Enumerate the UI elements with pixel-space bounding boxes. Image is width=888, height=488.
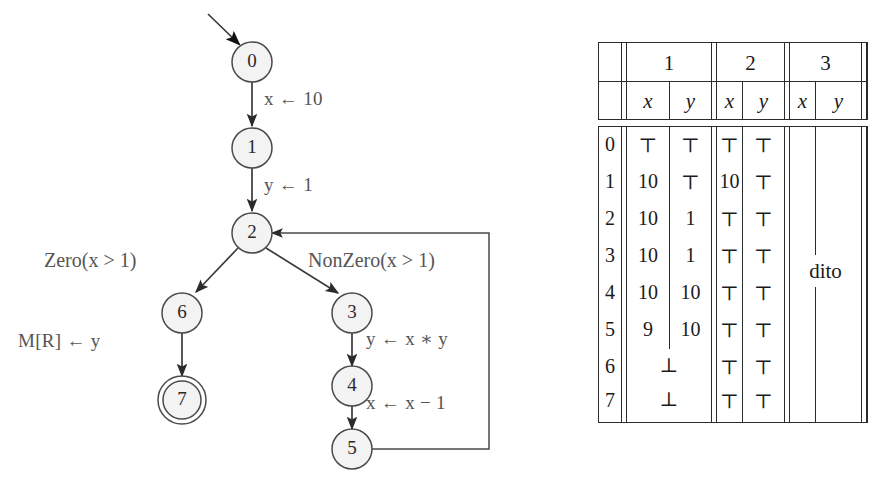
var-header-col3-x: x bbox=[790, 83, 815, 119]
cell-col2-x-row6: ⊤ bbox=[717, 355, 742, 379]
cell-col1-x-row4: 10 bbox=[627, 281, 669, 304]
edge-label-0-1: x ← 10 bbox=[264, 88, 323, 110]
edge-label-2-3-nonzero: NonZero(x > 1) bbox=[308, 249, 435, 272]
node-5-label: 5 bbox=[347, 437, 357, 458]
node-7[interactable]: 7 bbox=[158, 376, 206, 424]
cell-col2-x-row2: ⊤ bbox=[717, 207, 742, 231]
cell-col2-x-row0: ⊤ bbox=[717, 133, 742, 157]
group-header-2: 2 bbox=[717, 45, 784, 81]
row-label-0: 0 bbox=[599, 133, 621, 156]
cell-col1-y-row0: ⊤ bbox=[670, 133, 711, 157]
cell-col1-x-row3: 10 bbox=[627, 244, 669, 267]
cell-col2-x-row5: ⊤ bbox=[717, 318, 742, 342]
cell-col1-y-row5: 10 bbox=[670, 318, 711, 341]
var-header-col2-y: y bbox=[743, 83, 784, 119]
node-0[interactable]: 0 bbox=[232, 42, 272, 82]
cell-col1-merged-row7: ⊥ bbox=[627, 387, 711, 411]
figure-canvas: 0 1 2 6 3 7 bbox=[0, 0, 888, 488]
var-header-col1-x: x bbox=[627, 83, 669, 119]
cell-col1-x-row2: 10 bbox=[627, 207, 669, 230]
body-divider-col3-b bbox=[866, 127, 867, 422]
body-xy-divider-col1 bbox=[669, 127, 670, 349]
cell-col3-dito: dito bbox=[790, 255, 861, 287]
node-1[interactable]: 1 bbox=[232, 128, 272, 168]
cell-col2-y-row5: ⊤ bbox=[743, 318, 784, 342]
row-label-2: 2 bbox=[599, 207, 621, 230]
group-header-1: 1 bbox=[627, 45, 711, 81]
node-6[interactable]: 6 bbox=[162, 293, 202, 333]
edge-label-4-5-dec: x ← x − 1 bbox=[366, 392, 446, 414]
row-label-5: 5 bbox=[599, 318, 621, 341]
body-divider-col3-a bbox=[861, 127, 862, 422]
cell-col2-y-row4: ⊤ bbox=[743, 281, 784, 305]
cell-col1-y-row4: 10 bbox=[670, 281, 711, 304]
cell-col1-y-row3: 1 bbox=[670, 244, 711, 267]
edge-2-to-6 bbox=[196, 248, 238, 292]
node-2[interactable]: 2 bbox=[232, 213, 272, 253]
node-3-label: 3 bbox=[347, 301, 357, 322]
var-header-col1-y: y bbox=[670, 83, 711, 119]
cell-col2-x-row3: ⊤ bbox=[717, 244, 742, 268]
analysis-table-body: 0 1 2 3 4 5 6 7 ⊤ 10 10 10 10 9 ⊤ ⊤ 1 1 … bbox=[598, 126, 868, 423]
analysis-table: 1 2 3 x y x y x y bbox=[598, 42, 868, 423]
control-flow-graph: 0 1 2 6 3 7 bbox=[0, 0, 560, 488]
var-header-col2-x: x bbox=[717, 83, 742, 119]
entry-arrow bbox=[208, 14, 239, 44]
node-6-label: 6 bbox=[177, 301, 187, 322]
row-label-4: 4 bbox=[599, 281, 621, 304]
cell-col1-x-row5: 9 bbox=[627, 318, 669, 341]
edge-label-3-4-mul: y ← x ∗ y bbox=[366, 327, 448, 350]
analysis-table-header: 1 2 3 x y x y x y bbox=[598, 42, 868, 120]
node-1-label: 1 bbox=[247, 136, 257, 157]
cell-col2-y-row7: ⊤ bbox=[743, 389, 784, 413]
body-divider-rowlabel-a bbox=[621, 127, 622, 422]
cell-col2-y-row0: ⊤ bbox=[743, 133, 784, 157]
node-7-label: 7 bbox=[177, 388, 187, 409]
edge-label-1-2: y ← 1 bbox=[264, 174, 313, 196]
group-header-3: 3 bbox=[790, 45, 861, 81]
row-label-1: 1 bbox=[599, 170, 621, 193]
node-2-label: 2 bbox=[247, 221, 257, 242]
node-0-label: 0 bbox=[247, 50, 257, 71]
cell-col1-x-row0: ⊤ bbox=[627, 133, 669, 157]
body-divider-col1-a bbox=[711, 127, 712, 422]
node-5[interactable]: 5 bbox=[332, 429, 372, 469]
cell-col1-y-row2: 1 bbox=[670, 207, 711, 230]
row-label-6: 6 bbox=[599, 355, 621, 378]
edge-label-2-6-zero: Zero(x > 1) bbox=[44, 249, 136, 272]
edge-label-6-7-store: M[R] ← y bbox=[18, 330, 101, 352]
cell-col1-y-row1: ⊤ bbox=[670, 170, 711, 194]
cell-col2-x-row7: ⊤ bbox=[717, 389, 742, 413]
cell-col2-y-row1: ⊤ bbox=[743, 170, 784, 194]
cell-col2-y-row3: ⊤ bbox=[743, 244, 784, 268]
cell-col2-x-row4: ⊤ bbox=[717, 281, 742, 305]
cell-col2-y-row2: ⊤ bbox=[743, 207, 784, 231]
cell-col2-y-row6: ⊤ bbox=[743, 355, 784, 379]
row-label-7: 7 bbox=[599, 389, 621, 412]
body-divider-col2-a bbox=[784, 127, 785, 422]
cell-col2-x-row1: 10 bbox=[717, 170, 742, 193]
graph-svg: 0 1 2 6 3 7 bbox=[0, 0, 560, 488]
row-label-3: 3 bbox=[599, 244, 621, 267]
var-header-col3-y: y bbox=[816, 83, 861, 119]
cell-col1-merged-row6: ⊥ bbox=[627, 353, 711, 377]
node-4-label: 4 bbox=[347, 374, 357, 395]
cell-col1-x-row1: 10 bbox=[627, 170, 669, 193]
